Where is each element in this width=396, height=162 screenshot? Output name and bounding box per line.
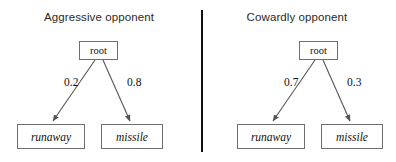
node-runaway-aggressive: runaway <box>17 124 85 149</box>
edge-root-to-missile <box>103 60 130 121</box>
edge-probability-runaway-cowardly: 0.7 <box>284 76 298 88</box>
edge-probability-missile-cowardly: 0.3 <box>347 76 361 88</box>
panel-aggressive-opponent: Aggressive opponent root 0.2 0.8 runaway… <box>0 0 198 162</box>
node-root-aggressive: root <box>79 41 118 60</box>
edge-root-to-missile <box>323 60 350 121</box>
node-root-cowardly: root <box>299 41 338 60</box>
node-runaway-cowardly: runaway <box>237 124 305 149</box>
node-missile-cowardly: missile <box>321 124 383 149</box>
node-missile-aggressive: missile <box>101 124 163 149</box>
edge-probability-runaway-aggressive: 0.2 <box>64 76 78 88</box>
edge-root-to-runaway <box>53 60 95 121</box>
panel-cowardly-opponent: Cowardly opponent root 0.7 0.3 runaway m… <box>198 0 396 162</box>
edge-probability-missile-aggressive: 0.8 <box>127 76 141 88</box>
decision-tree-figure: Aggressive opponent root 0.2 0.8 runaway… <box>0 0 396 162</box>
edge-root-to-runaway <box>273 60 315 121</box>
